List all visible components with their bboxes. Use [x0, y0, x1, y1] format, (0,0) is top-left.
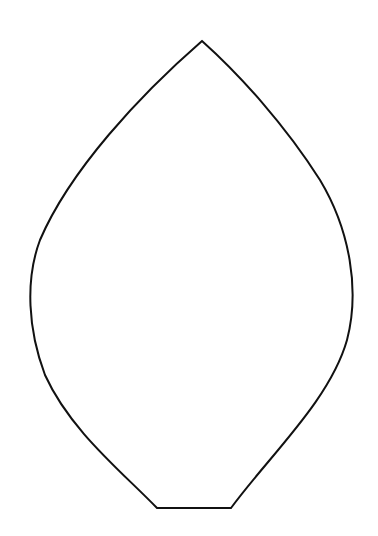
- petal-outline-path: [30, 41, 352, 508]
- petal-outline-icon: [0, 0, 378, 536]
- petal-template-canvas: [0, 0, 378, 536]
